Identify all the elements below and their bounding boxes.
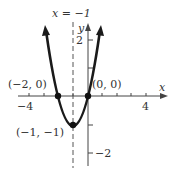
label-left-root: (−2, 0) <box>8 78 47 91</box>
point-vertex <box>70 122 76 128</box>
y-tick-neg2: −2 <box>95 147 111 160</box>
x-axis-label: x <box>159 81 166 94</box>
label-origin: (0, 0) <box>92 78 122 91</box>
label-vertex: (−1, −1) <box>16 126 64 139</box>
point-origin <box>85 93 91 99</box>
point-left-root <box>55 93 61 99</box>
x-tick-4: 4 <box>142 100 149 113</box>
x-axis <box>18 93 168 99</box>
parabola-graph: x = −1 y x 2 −2 −4 4 (−2, 0) (0, 0) (−1,… <box>0 0 178 170</box>
x-tick-neg4: −4 <box>17 100 33 113</box>
equation-label: x = −1 <box>52 7 91 20</box>
y-tick-2: 2 <box>76 34 83 47</box>
